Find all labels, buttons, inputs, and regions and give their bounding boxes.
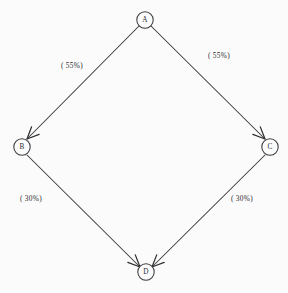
edge-line-c-to-d <box>152 155 265 267</box>
edge-line-b-to-d <box>27 155 140 267</box>
edge-label-c-to-d: ( 30%) <box>231 194 253 203</box>
edge-b-to-d[interactable] <box>27 155 140 267</box>
node-d-label: D <box>143 268 148 276</box>
edge-a-to-b[interactable] <box>27 26 139 139</box>
node-c[interactable]: C <box>262 139 278 155</box>
node-b-label: B <box>20 143 25 151</box>
diagram-canvas: A B C D ( 55%) ( 55%) ( 30%) ( 30%) <box>0 0 288 293</box>
node-b[interactable]: B <box>14 139 30 155</box>
edge-a-to-c[interactable] <box>151 26 265 139</box>
node-d[interactable]: D <box>138 264 154 280</box>
node-a-label: A <box>142 16 148 24</box>
edge-label-b-to-d: ( 30%) <box>20 194 42 203</box>
node-a[interactable]: A <box>137 12 153 28</box>
edge-line-a-to-b <box>27 26 139 139</box>
edge-c-to-d[interactable] <box>152 155 265 267</box>
edge-label-a-to-c: ( 55%) <box>208 51 230 60</box>
graph-svg: A B C D ( 55%) ( 55%) ( 30%) ( 30%) <box>0 0 288 293</box>
node-c-label: C <box>268 143 273 151</box>
edge-line-a-to-c <box>151 26 265 139</box>
edge-label-a-to-b: ( 55%) <box>61 61 83 70</box>
